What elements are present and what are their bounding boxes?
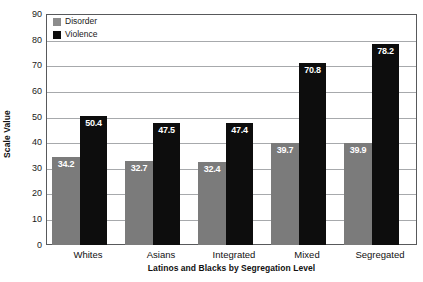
bar-value-label: 39.7	[271, 145, 299, 155]
x-tick-label-mixed: Mixed	[271, 249, 343, 260]
y-tick-label: 40	[8, 138, 42, 147]
bar-disorder[interactable]: 34.2	[52, 157, 80, 245]
x-tick-label-whites: Whites	[52, 249, 124, 260]
y-tick-label: 0	[8, 241, 42, 250]
bar-group-asians: 32.7 47.5	[125, 14, 197, 245]
y-axis-title: Scale Value	[2, 94, 12, 174]
bar-value-label: 32.4	[198, 164, 226, 174]
y-tick-label: 60	[8, 87, 42, 96]
legend: Disorder Violence	[53, 16, 97, 42]
x-tick-label-integrated: Integrated	[198, 249, 270, 260]
bar-value-label: 32.7	[125, 163, 153, 173]
bar-value-label: 50.4	[80, 118, 107, 128]
y-tick-label: 90	[8, 10, 42, 19]
x-tick-label-segregated: Segregated	[344, 249, 416, 260]
bar-chart: Scale Value 90 80 70 60 50 40 30 20 10 0…	[0, 0, 423, 282]
legend-item-violence[interactable]: Violence	[53, 29, 97, 40]
y-tick-label: 20	[8, 189, 42, 198]
bar-value-label: 34.2	[52, 159, 80, 169]
bar-value-label: 39.9	[344, 145, 372, 155]
bar-disorder[interactable]: 39.7	[271, 143, 299, 245]
legend-swatch-violence-icon	[53, 31, 61, 39]
bar-violence[interactable]: 47.5	[153, 123, 180, 245]
y-tick-label: 10	[8, 215, 42, 224]
legend-swatch-disorder-icon	[53, 18, 61, 26]
y-tick-label: 80	[8, 36, 42, 45]
bar-group-segregated: 39.9 78.2	[344, 14, 416, 245]
bar-value-label: 78.2	[372, 46, 399, 56]
y-tick-label: 70	[8, 61, 42, 70]
legend-label-disorder: Disorder	[65, 17, 97, 26]
bar-value-label: 70.8	[299, 65, 326, 75]
bar-violence[interactable]: 78.2	[372, 44, 399, 245]
bar-disorder[interactable]: 32.4	[198, 162, 226, 245]
bar-disorder[interactable]: 39.9	[344, 143, 372, 245]
bar-violence[interactable]: 70.8	[299, 63, 326, 245]
legend-item-disorder[interactable]: Disorder	[53, 16, 97, 27]
bar-value-label: 47.4	[226, 125, 253, 135]
legend-label-violence: Violence	[65, 30, 97, 39]
y-tick-label: 50	[8, 113, 42, 122]
bar-group-integrated: 32.4 47.4	[198, 14, 270, 245]
y-tick-label: 30	[8, 164, 42, 173]
bars-layer: 34.2 50.4 32.7 47.5 32.4 47.4 39.7	[46, 14, 417, 245]
bar-group-whites: 34.2 50.4	[52, 14, 124, 245]
bar-group-mixed: 39.7 70.8	[271, 14, 343, 245]
bar-disorder[interactable]: 32.7	[125, 161, 153, 245]
bar-violence[interactable]: 50.4	[80, 116, 107, 245]
bar-violence[interactable]: 47.4	[226, 123, 253, 245]
x-tick-label-asians: Asians	[125, 249, 197, 260]
x-axis-title: Latinos and Blacks by Segregation Level	[46, 263, 417, 273]
bar-value-label: 47.5	[153, 125, 180, 135]
